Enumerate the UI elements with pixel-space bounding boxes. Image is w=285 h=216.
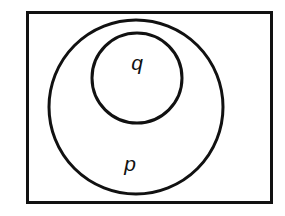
- set-label-q: q: [131, 51, 143, 74]
- euler-diagram-canvas: p q: [0, 0, 285, 216]
- set-circle-q: [92, 33, 182, 123]
- set-label-p: p: [123, 152, 136, 175]
- euler-diagram-svg: p q: [0, 0, 285, 216]
